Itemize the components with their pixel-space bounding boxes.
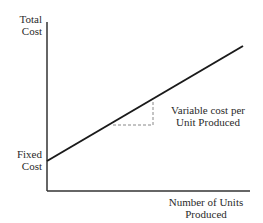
y-axis-label: Total Cost xyxy=(2,13,42,37)
x-axis-label-line1: Number of Units xyxy=(150,196,262,208)
fixed-cost-line2: Cost xyxy=(2,160,42,172)
fixed-cost-line1: Fixed xyxy=(2,148,42,160)
x-axis-label: Number of Units Produced xyxy=(150,196,262,220)
x-axis-label-line2: Produced xyxy=(150,208,262,220)
variable-cost-line2: Unit Produced xyxy=(152,116,263,128)
y-axis-label-line1: Total xyxy=(2,13,42,25)
variable-cost-label: Variable cost per Unit Produced xyxy=(152,104,263,128)
variable-cost-line1: Variable cost per xyxy=(152,104,263,116)
y-axis-label-line2: Cost xyxy=(2,25,42,37)
fixed-cost-label: Fixed Cost xyxy=(2,148,42,172)
